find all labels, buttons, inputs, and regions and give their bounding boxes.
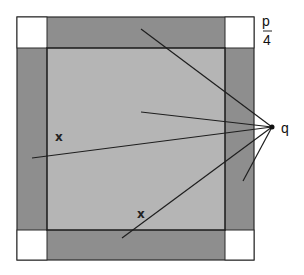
side-label-x-bottom: x bbox=[137, 207, 145, 221]
inner-square bbox=[47, 48, 225, 230]
corner-top-right bbox=[225, 17, 254, 48]
fraction-denominator: 4 bbox=[263, 32, 271, 48]
point-q-dot bbox=[270, 125, 275, 130]
geometry-diagram: q p 4 x x bbox=[0, 0, 304, 275]
corner-bottom-right bbox=[225, 230, 254, 260]
side-label-x-left: x bbox=[55, 130, 63, 144]
corner-top-left bbox=[17, 17, 47, 48]
fraction-numerator: p bbox=[262, 13, 270, 29]
point-q-label: q bbox=[281, 120, 289, 136]
corner-bottom-left bbox=[17, 230, 47, 260]
